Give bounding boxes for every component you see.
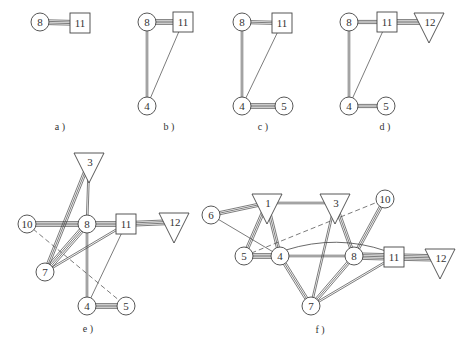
panel-label-a: a ) bbox=[55, 121, 65, 133]
node-label: 5 bbox=[383, 100, 389, 112]
node-12-triangle: 12 bbox=[414, 13, 444, 43]
node-5-circle: 5 bbox=[377, 97, 395, 115]
edge-11-4 bbox=[349, 22, 387, 106]
node-label: 12 bbox=[425, 16, 436, 28]
node-1-triangle: 1 bbox=[252, 194, 282, 224]
node-label: 3 bbox=[333, 197, 339, 209]
node-label: 4 bbox=[144, 100, 150, 112]
node-label: 5 bbox=[241, 250, 247, 262]
panel-label-e: e ) bbox=[83, 323, 93, 335]
network-diagram: 8118114811458111245310811127451310654811… bbox=[0, 0, 465, 352]
nodes-layer: 8118114811458111245310811127451310654811… bbox=[18, 12, 455, 315]
node-label: 11 bbox=[382, 16, 393, 28]
node-3-triangle: 3 bbox=[320, 194, 350, 224]
node-label: 4 bbox=[84, 300, 90, 312]
node-label: 7 bbox=[42, 266, 48, 278]
node-label: 10 bbox=[380, 193, 392, 205]
node-8-circle: 8 bbox=[78, 215, 96, 233]
edge-8-4 bbox=[86, 224, 88, 306]
node-5-circle: 5 bbox=[117, 297, 135, 315]
node-8-circle: 8 bbox=[233, 13, 251, 31]
edge-11-4 bbox=[242, 23, 282, 106]
node-3-triangle: 3 bbox=[74, 153, 104, 183]
node-label: 8 bbox=[84, 218, 90, 230]
node-label: 3 bbox=[87, 156, 93, 168]
edge-8-4 bbox=[146, 22, 148, 106]
panel-e bbox=[27, 161, 174, 308]
node-7-circle: 7 bbox=[36, 263, 54, 281]
node-11-square: 11 bbox=[70, 13, 90, 33]
node-4-circle: 4 bbox=[271, 247, 289, 265]
node-12-triangle: 12 bbox=[425, 249, 455, 279]
node-label: 7 bbox=[308, 300, 314, 312]
node-6-circle: 6 bbox=[202, 206, 220, 224]
node-4-circle: 4 bbox=[340, 97, 358, 115]
node-10-circle: 10 bbox=[18, 215, 36, 233]
node-label: 12 bbox=[436, 252, 447, 264]
node-label: 11 bbox=[389, 251, 400, 263]
edge-4-8 bbox=[280, 255, 354, 257]
node-label: 11 bbox=[277, 17, 288, 29]
node-label: 1 bbox=[265, 197, 271, 209]
node-4-circle: 4 bbox=[138, 97, 156, 115]
node-11-square: 11 bbox=[384, 247, 404, 267]
node-label: 6 bbox=[208, 209, 214, 221]
node-12-triangle: 12 bbox=[159, 213, 189, 243]
node-label: 8 bbox=[239, 16, 245, 28]
panel-d bbox=[348, 20, 429, 108]
panel-label-c: c ) bbox=[258, 121, 268, 133]
node-11-square: 11 bbox=[272, 13, 292, 33]
node-label: 8 bbox=[144, 16, 150, 28]
node-label: 8 bbox=[37, 16, 43, 28]
node-4-circle: 4 bbox=[78, 297, 96, 315]
node-label: 5 bbox=[281, 100, 287, 112]
node-label: 4 bbox=[346, 100, 352, 112]
panel-c bbox=[241, 20, 284, 108]
node-label: 5 bbox=[123, 300, 129, 312]
node-label: 11 bbox=[121, 218, 132, 230]
node-4-circle: 4 bbox=[233, 97, 251, 115]
node-11-square: 11 bbox=[377, 12, 397, 32]
node-7-circle: 7 bbox=[302, 297, 320, 315]
node-11-square: 11 bbox=[116, 214, 136, 234]
panel-b bbox=[146, 20, 183, 106]
edge-11-4 bbox=[147, 22, 183, 106]
node-label: 10 bbox=[22, 218, 34, 230]
node-label: 11 bbox=[75, 17, 86, 29]
node-8-circle: 8 bbox=[340, 13, 358, 31]
node-8-circle: 8 bbox=[138, 13, 156, 31]
node-label: 4 bbox=[239, 100, 245, 112]
node-5-circle: 5 bbox=[275, 97, 293, 115]
node-8-circle: 8 bbox=[345, 247, 363, 265]
node-label: 12 bbox=[170, 216, 181, 228]
panel-label-d: d ) bbox=[380, 121, 391, 133]
node-label: 4 bbox=[277, 250, 283, 262]
node-label: 8 bbox=[346, 16, 352, 28]
node-8-circle: 8 bbox=[31, 13, 49, 31]
node-5-circle: 5 bbox=[235, 247, 253, 265]
node-label: 8 bbox=[351, 250, 357, 262]
edge-4-11 bbox=[286, 242, 386, 251]
panel-label-f: f ) bbox=[315, 324, 324, 336]
node-label: 11 bbox=[178, 16, 189, 28]
edge-8-4 bbox=[348, 22, 350, 106]
panel-label-b: b ) bbox=[164, 121, 175, 133]
node-11-square: 11 bbox=[173, 12, 193, 32]
edge-8-4 bbox=[241, 22, 243, 106]
node-10-circle: 10 bbox=[376, 190, 394, 208]
